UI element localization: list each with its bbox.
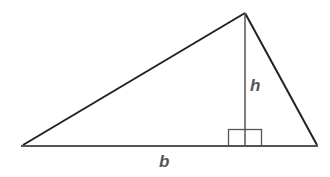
base-label: b [159, 152, 169, 171]
triangle-diagram: h b [0, 0, 330, 177]
left-side [23, 13, 245, 145]
height-label: h [250, 76, 260, 95]
